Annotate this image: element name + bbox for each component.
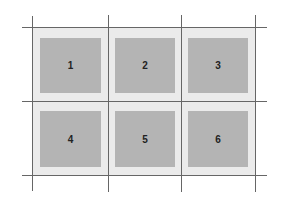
gridline-vertical-1 — [32, 16, 33, 191]
box-1: 1 — [40, 38, 101, 93]
cell-5: 5 — [109, 102, 181, 175]
box-6: 6 — [188, 111, 248, 167]
gridline-horizontal-3 — [22, 175, 267, 176]
gridline-horizontal-2 — [22, 101, 267, 102]
cell-label: 2 — [142, 60, 148, 71]
cell-label: 1 — [68, 60, 74, 71]
gridline-vertical-3 — [181, 15, 182, 192]
cell-label: 6 — [215, 134, 221, 145]
gridline-horizontal-1 — [22, 27, 267, 28]
cell-2: 2 — [109, 28, 181, 101]
cell-label: 5 — [142, 134, 148, 145]
box-3: 3 — [188, 38, 248, 93]
cell-label: 4 — [68, 134, 74, 145]
box-2: 2 — [115, 38, 175, 93]
cell-label: 3 — [215, 60, 221, 71]
box-4: 4 — [40, 111, 101, 167]
cell-4: 4 — [33, 102, 108, 175]
cell-3: 3 — [182, 28, 255, 101]
cell-6: 6 — [182, 102, 255, 175]
gridline-vertical-4 — [255, 15, 256, 192]
gridline-vertical-2 — [108, 15, 109, 192]
cell-1: 1 — [33, 28, 108, 101]
box-5: 5 — [115, 111, 175, 167]
